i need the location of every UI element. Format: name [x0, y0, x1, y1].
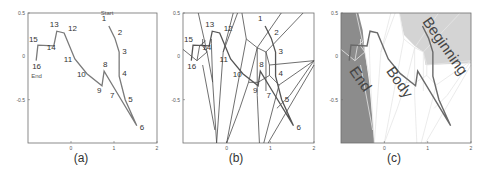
- svg-text:3: 3: [122, 47, 127, 56]
- svg-text:-0.5: -0.5: [329, 97, 338, 103]
- svg-text:7: 7: [266, 91, 271, 100]
- svg-text:6: 6: [140, 123, 145, 132]
- trajectory-plot: 0120.50-0.5 12345678910111213141516 Star…: [0, 0, 162, 150]
- panel-caption-b: (b): [155, 151, 317, 165]
- svg-text:2: 2: [274, 28, 279, 37]
- region-plot: 0120.50-0.5 EndBodyBeginning: [313, 0, 488, 150]
- svg-text:0.5: 0.5: [173, 10, 180, 16]
- end-label: End: [31, 73, 42, 79]
- svg-text:2: 2: [118, 28, 123, 37]
- svg-text:0: 0: [225, 145, 228, 150]
- axis-ticks: 0120.50-0.5: [16, 10, 158, 150]
- panel-caption-c: (c): [313, 151, 475, 165]
- svg-text:10: 10: [233, 70, 242, 79]
- svg-text:10: 10: [77, 70, 86, 79]
- panel-b: 0120.50-0.5 12345678910111213141516 (b): [155, 0, 317, 174]
- svg-text:1: 1: [258, 14, 263, 23]
- svg-text:0: 0: [22, 53, 25, 59]
- panel-c: 0120.50-0.5 EndBodyBeginning (c): [313, 0, 475, 174]
- start-label: Start: [101, 10, 114, 16]
- svg-text:2: 2: [470, 145, 473, 150]
- panel-a: 0120.50-0.5 12345678910111213141516 Star…: [0, 0, 162, 174]
- svg-text:13: 13: [205, 20, 214, 29]
- svg-text:0: 0: [383, 145, 386, 150]
- svg-text:16: 16: [187, 62, 196, 71]
- svg-text:1: 1: [269, 145, 272, 150]
- svg-text:11: 11: [220, 55, 229, 64]
- svg-text:5: 5: [285, 95, 290, 104]
- svg-text:1: 1: [426, 145, 429, 150]
- svg-text:8: 8: [103, 60, 108, 69]
- svg-text:4: 4: [122, 69, 127, 78]
- svg-text:5: 5: [128, 95, 133, 104]
- svg-text:0.5: 0.5: [18, 10, 25, 16]
- svg-text:6: 6: [296, 123, 301, 132]
- svg-text:1: 1: [113, 145, 116, 150]
- voronoi-plot: 0120.50-0.5 12345678910111213141516: [155, 0, 317, 150]
- svg-text:13: 13: [50, 20, 59, 29]
- svg-text:14: 14: [202, 43, 211, 52]
- svg-text:0: 0: [177, 53, 180, 59]
- axis-ticks: 0120.50-0.5: [171, 10, 315, 150]
- svg-text:12: 12: [68, 24, 77, 33]
- svg-text:-0.5: -0.5: [16, 97, 25, 103]
- svg-text:16: 16: [32, 62, 41, 71]
- svg-text:0: 0: [70, 145, 73, 150]
- svg-text:7: 7: [110, 91, 115, 100]
- svg-text:15: 15: [29, 35, 38, 44]
- svg-text:0.5: 0.5: [331, 10, 338, 16]
- svg-text:-0.5: -0.5: [171, 97, 180, 103]
- svg-text:0: 0: [335, 53, 338, 59]
- panel-caption-a: (a): [0, 151, 162, 165]
- svg-text:15: 15: [184, 35, 193, 44]
- svg-text:12: 12: [224, 24, 233, 33]
- svg-text:8: 8: [259, 60, 264, 69]
- svg-text:9: 9: [97, 86, 102, 95]
- svg-text:14: 14: [47, 43, 56, 52]
- svg-text:3: 3: [279, 47, 284, 56]
- svg-text:9: 9: [253, 86, 258, 95]
- svg-text:11: 11: [64, 55, 73, 64]
- svg-text:4: 4: [279, 69, 284, 78]
